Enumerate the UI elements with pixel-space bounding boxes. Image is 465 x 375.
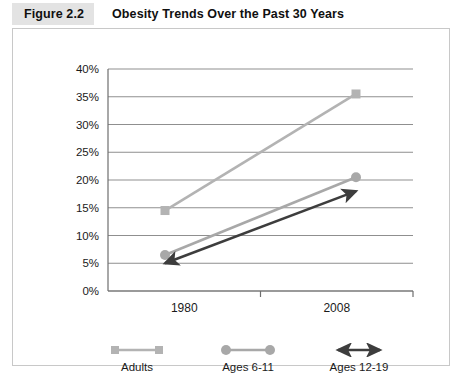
figure-number-tag: Figure 2.2 [12,3,94,25]
y-tick-label: 30% [76,119,99,131]
chart-container: 0%5%10%15%20%25%30%35%40% 19802008 [12,28,450,366]
obesity-trends-line-chart: 0%5%10%15%20%25%30%35%40% 19802008 [13,29,449,365]
figure-caption-bar: Figure 2.2 Obesity Trends Over the Past … [12,2,452,26]
circle-marker-icon [220,341,276,359]
y-axis-tick-labels: 0%5%10%15%20%25%30%35%40% [76,63,99,297]
x-axis-ticks [261,291,414,297]
y-tick-label: 5% [82,257,99,269]
y-tick-label: 35% [76,91,99,103]
y-tick-label: 25% [76,146,99,158]
legend-label-ages-6-11: Ages 6-11 [222,361,274,373]
chart-legend: Adults Ages 6-11 Ages 12-19 [83,341,413,375]
legend-item-adults[interactable]: Adults [83,341,191,373]
y-tick-label: 10% [76,230,99,242]
chart-gridlines [108,69,413,291]
x-axis-tick-labels: 19802008 [171,301,351,315]
legend-item-ages-6-11[interactable]: Ages 6-11 [194,341,302,373]
x-tick-label: 1980 [171,301,198,315]
legend-label-adults: Adults [121,361,153,373]
y-tick-label: 15% [76,202,99,214]
series-ages-12-19 [165,191,356,263]
figure-title: Obesity Trends Over the Past 30 Years [112,7,344,21]
y-tick-label: 20% [76,174,99,186]
series-ages-6-11 [160,172,361,260]
legend-item-ages-12-19[interactable]: Ages 12-19 [305,341,413,373]
x-tick-label: 2008 [323,301,350,315]
square-marker-icon [109,341,165,359]
y-tick-label: 40% [76,63,99,75]
double-arrow-marker-icon [331,341,387,359]
chart-series-layer [160,89,361,263]
legend-label-ages-12-19: Ages 12-19 [330,361,389,373]
y-tick-label: 0% [82,285,99,297]
